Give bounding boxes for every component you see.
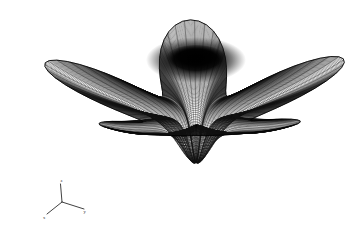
wireframe-surface-canvas: zyx	[0, 0, 352, 229]
axis-label-z: z	[60, 178, 62, 183]
surface-plot-figure: zyx	[0, 0, 352, 229]
center-depression-core	[166, 45, 226, 71]
